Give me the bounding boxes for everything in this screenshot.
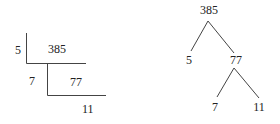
tree-branch-77-left <box>217 68 234 97</box>
factorization-figure: 5 385 7 77 11 385 5 77 7 11 <box>0 0 280 124</box>
tree-node-77: 77 <box>230 53 242 67</box>
ladder-dividend-2: 77 <box>70 75 82 89</box>
tree-node-7: 7 <box>212 100 218 114</box>
tree-root: 385 <box>200 3 218 17</box>
factor-tree: 385 5 77 7 11 <box>186 3 265 114</box>
tree-node-5: 5 <box>186 53 192 67</box>
tree-branch-root-left <box>191 21 208 51</box>
division-ladder: 5 385 7 77 11 <box>15 33 106 116</box>
ladder-quotient: 11 <box>82 102 94 116</box>
tree-node-11: 11 <box>253 100 265 114</box>
tree-branch-77-right <box>234 68 259 98</box>
tree-branch-root-right <box>208 21 234 53</box>
ladder-dividend-1: 385 <box>48 42 66 56</box>
ladder-divisor-1: 5 <box>15 43 21 57</box>
ladder-divisor-2: 7 <box>29 74 35 88</box>
